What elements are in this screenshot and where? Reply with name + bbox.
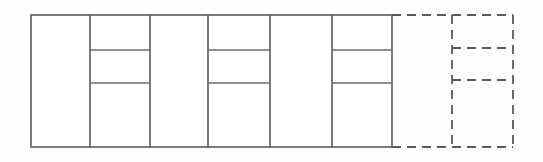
solid-block-face	[31, 15, 392, 147]
solid-block-group	[31, 15, 392, 147]
dashed-block-group	[392, 15, 513, 147]
elevation-diagram	[0, 0, 543, 162]
diagram-canvas	[0, 0, 543, 162]
dashed-bay-8-subdivisions	[452, 48, 513, 80]
